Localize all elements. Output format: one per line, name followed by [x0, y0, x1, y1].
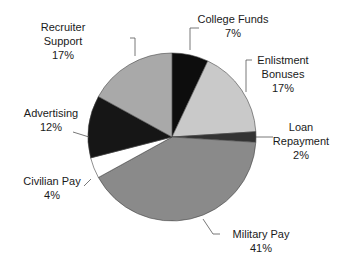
label-text: Military Pay — [233, 227, 290, 241]
label-military-pay: Military Pay 41% — [233, 227, 290, 255]
label-loan-repayment: Loan Repayment 2% — [273, 120, 329, 162]
pie-slices — [88, 53, 256, 221]
label-percent: 2% — [273, 148, 329, 162]
label-text: Support — [41, 34, 86, 48]
label-recruiter-support: Recruiter Support 17% — [41, 20, 86, 62]
label-text: Loan — [273, 120, 329, 134]
label-text: Civilian Pay — [23, 174, 80, 188]
leader-military-pay — [203, 219, 220, 234]
label-text: Bonuses — [257, 67, 308, 81]
label-percent: 41% — [233, 241, 290, 255]
label-percent: 17% — [257, 81, 308, 95]
label-percent: 12% — [24, 120, 78, 134]
label-percent: 17% — [41, 48, 86, 62]
label-text: College Funds — [198, 12, 269, 26]
label-percent: 7% — [198, 26, 269, 40]
leader-recruiter-support — [130, 38, 135, 56]
leader-civilian-pay — [84, 179, 91, 186]
label-enlistment-bonuses: Enlistment Bonuses 17% — [257, 53, 308, 95]
label-percent: 4% — [23, 188, 80, 202]
label-advertising: Advertising 12% — [24, 106, 78, 134]
label-text: Recruiter — [41, 20, 86, 34]
label-text: Advertising — [24, 106, 78, 120]
label-civilian-pay: Civilian Pay 4% — [23, 174, 80, 202]
label-text: Repayment — [273, 134, 329, 148]
label-text: Enlistment — [257, 53, 308, 67]
leader-enlistment-bonuses — [246, 60, 252, 92]
label-college-funds: College Funds 7% — [198, 12, 269, 40]
